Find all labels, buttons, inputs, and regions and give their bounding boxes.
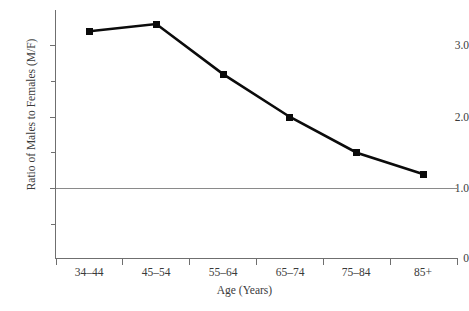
data-point-55–64 bbox=[220, 71, 227, 78]
x-axis-title: Age (Years) bbox=[24, 284, 465, 297]
data-point-85+ bbox=[420, 171, 427, 178]
chart-figure: Ratio of Males to Females (M/F) 3.0 2.0 … bbox=[0, 0, 469, 311]
data-point-65–74 bbox=[286, 114, 293, 121]
series-line bbox=[0, 0, 469, 311]
data-point-75–84 bbox=[353, 149, 360, 156]
data-point-45–54 bbox=[153, 21, 160, 28]
data-point-34–44 bbox=[86, 28, 93, 35]
